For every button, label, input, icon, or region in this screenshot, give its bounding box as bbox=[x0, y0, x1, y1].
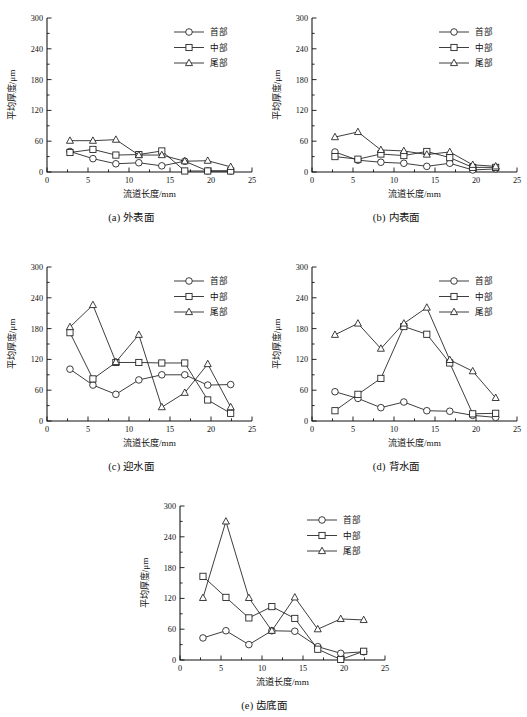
data-point-square bbox=[113, 152, 119, 158]
data-point-circle bbox=[186, 278, 193, 285]
data-point-triangle bbox=[89, 137, 96, 143]
y-tick-label: 180 bbox=[31, 76, 43, 85]
legend-label-尾部: 尾部 bbox=[343, 545, 361, 556]
y-tick-label: 180 bbox=[164, 564, 176, 573]
x-tick-label: 15 bbox=[431, 176, 439, 185]
data-point-circle bbox=[424, 407, 431, 414]
y-tick-label: 240 bbox=[164, 533, 176, 542]
x-tick-label: 5 bbox=[86, 176, 90, 185]
data-point-square bbox=[90, 376, 96, 382]
data-point-circle bbox=[90, 382, 97, 389]
data-point-triangle bbox=[423, 304, 430, 310]
data-point-square bbox=[447, 155, 453, 161]
data-point-triangle bbox=[319, 547, 326, 553]
data-point-square bbox=[186, 44, 192, 50]
legend-label-尾部: 尾部 bbox=[210, 306, 228, 317]
data-point-circle bbox=[401, 160, 408, 167]
x-tick-label: 5 bbox=[351, 176, 355, 185]
x-tick-label: 0 bbox=[45, 425, 49, 434]
data-point-circle bbox=[424, 163, 431, 170]
data-point-square bbox=[470, 411, 476, 417]
figure-page: 0601201802403000510152025流道长度/mm平均厚度/μm首… bbox=[0, 0, 527, 717]
x-tick-label: 25 bbox=[248, 425, 256, 434]
legend-label-中部: 中部 bbox=[210, 42, 228, 53]
y-tick-label: 240 bbox=[296, 45, 308, 54]
data-point-circle bbox=[136, 159, 143, 166]
data-point-square bbox=[182, 168, 188, 174]
data-point-triangle bbox=[451, 59, 458, 65]
data-point-square bbox=[205, 168, 211, 174]
data-point-square bbox=[182, 360, 188, 366]
data-point-circle bbox=[113, 160, 120, 167]
data-point-circle bbox=[332, 388, 339, 395]
series-尾部 bbox=[66, 301, 234, 410]
x-tick-label: 15 bbox=[299, 664, 307, 673]
y-tick-label: 60 bbox=[35, 137, 43, 146]
y-tick-label: 120 bbox=[164, 594, 176, 603]
chart-caption-d: (d) 背水面 bbox=[265, 458, 527, 473]
y-tick-label: 0 bbox=[172, 656, 176, 665]
data-point-triangle bbox=[204, 360, 211, 366]
x-tick-label: 5 bbox=[351, 425, 355, 434]
y-tick-label: 60 bbox=[168, 625, 176, 634]
series-中部 bbox=[67, 330, 234, 417]
y-tick-label: 180 bbox=[296, 325, 308, 334]
legend-label-尾部: 尾部 bbox=[475, 306, 493, 317]
data-point-square bbox=[159, 360, 165, 366]
x-axis-title: 流道长度/mm bbox=[256, 676, 309, 687]
plot-c: 0601201802403000510152025流道长度/mm平均厚度/μm首… bbox=[0, 253, 262, 455]
data-point-triangle bbox=[446, 148, 453, 154]
chart-panel-e: 0601201802403000510152025流道长度/mm平均厚度/μm首… bbox=[133, 492, 395, 694]
legend-label-中部: 中部 bbox=[210, 291, 228, 302]
data-point-triangle bbox=[331, 331, 338, 337]
y-tick-label: 60 bbox=[35, 386, 43, 395]
data-point-triangle bbox=[469, 367, 476, 373]
legend-label-中部: 中部 bbox=[475, 291, 493, 302]
legend-label-尾部: 尾部 bbox=[210, 57, 228, 68]
data-point-circle bbox=[200, 635, 207, 642]
x-tick-label: 20 bbox=[207, 425, 215, 434]
y-tick-label: 300 bbox=[31, 263, 43, 272]
data-point-triangle bbox=[291, 594, 298, 600]
x-tick-label: 15 bbox=[166, 176, 174, 185]
data-point-triangle bbox=[135, 331, 142, 337]
x-axis-title: 流道长度/mm bbox=[123, 188, 176, 199]
data-point-circle bbox=[451, 29, 458, 36]
data-point-square bbox=[136, 359, 142, 365]
y-tick-label: 240 bbox=[31, 45, 43, 54]
legend: 首部中部尾部 bbox=[439, 26, 493, 68]
x-axis-title: 流道长度/mm bbox=[388, 437, 441, 448]
axes: 0601201802403000510152025 bbox=[296, 263, 521, 434]
chart-panel-d: 0601201802403000510152025流道长度/mm平均厚度/μm首… bbox=[265, 253, 527, 455]
legend-label-首部: 首部 bbox=[475, 26, 493, 37]
x-tick-label: 20 bbox=[472, 176, 480, 185]
data-point-triangle bbox=[400, 320, 407, 326]
x-tick-label: 5 bbox=[86, 425, 90, 434]
plot-e: 0601201802403000510152025流道长度/mm平均厚度/μm首… bbox=[133, 492, 395, 694]
data-point-circle bbox=[186, 29, 193, 36]
x-axis-title: 流道长度/mm bbox=[388, 188, 441, 199]
legend-label-首部: 首部 bbox=[475, 275, 493, 286]
chart-panel-b: 0601201802403000510152025流道长度/mm平均厚度/μm首… bbox=[265, 4, 527, 206]
y-tick-label: 300 bbox=[164, 502, 176, 511]
x-tick-label: 25 bbox=[513, 176, 521, 185]
axes: 0601201802403000510152025 bbox=[296, 14, 521, 185]
chart-b: 0601201802403000510152025流道长度/mm平均厚度/μm首… bbox=[265, 4, 527, 206]
data-point-square bbox=[361, 648, 367, 654]
x-tick-label: 20 bbox=[472, 425, 480, 434]
data-point-circle bbox=[90, 155, 97, 162]
data-point-circle bbox=[113, 391, 120, 398]
data-point-square bbox=[246, 615, 252, 621]
data-point-circle bbox=[223, 627, 230, 634]
y-tick-label: 120 bbox=[296, 355, 308, 364]
data-point-triangle bbox=[204, 157, 211, 163]
chart-caption-c: (c) 迎水面 bbox=[0, 458, 262, 473]
y-tick-label: 300 bbox=[31, 14, 43, 23]
legend-label-首部: 首部 bbox=[343, 514, 361, 525]
y-tick-label: 120 bbox=[31, 355, 43, 364]
data-point-triangle bbox=[337, 615, 344, 621]
data-point-circle bbox=[227, 381, 234, 388]
x-tick-label: 20 bbox=[340, 664, 348, 673]
x-axis-title: 流道长度/mm bbox=[123, 437, 176, 448]
x-tick-label: 10 bbox=[125, 425, 133, 434]
